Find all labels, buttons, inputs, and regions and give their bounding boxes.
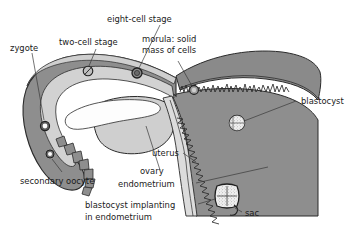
cell-zygote [40, 121, 49, 130]
diagram-canvas: zygote two-cell stage eight-cell stage m… [0, 0, 356, 244]
label-blastocyst: blastocyst [301, 96, 344, 106]
label-ovary: ovary [140, 166, 164, 176]
label-morula-line2: mass of cells [142, 45, 196, 55]
label-uterus: uterus [152, 148, 179, 158]
label-secondary-oocyte: secondary oocyte [20, 176, 94, 186]
cell-two-cell-stage [83, 66, 93, 76]
label-endometrium: endometrium [118, 179, 175, 189]
label-eight-cell-stage: eight-cell stage [107, 14, 172, 24]
label-morula-line1: morula: solid [142, 34, 196, 44]
cell-blastocyst [229, 115, 245, 131]
label-zygote: zygote [10, 43, 38, 53]
label-sac: sac [245, 208, 259, 218]
cell-secondary-oocyte [46, 150, 54, 158]
cell-morula [190, 86, 199, 95]
label-implanting-line1: blastocyst implanting [85, 200, 175, 210]
label-implanting-line2: in endometrium [85, 212, 152, 222]
cell-eight-cell-stage [132, 68, 142, 78]
label-two-cell-stage: two-cell stage [59, 37, 118, 47]
